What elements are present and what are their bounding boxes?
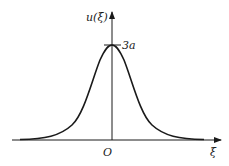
soliton-diagram: u(ξ) 3a O ξ xyxy=(0,0,229,166)
origin-label: O xyxy=(103,146,112,159)
y-axis-label: u(ξ) xyxy=(86,11,108,24)
peak-label: 3a xyxy=(122,39,136,52)
x-axis-label: ξ xyxy=(210,146,217,159)
